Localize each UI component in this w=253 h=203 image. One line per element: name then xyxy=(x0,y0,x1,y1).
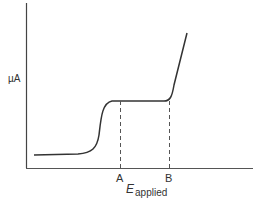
current-curve xyxy=(34,33,187,155)
x-axis-label-main: E xyxy=(126,182,134,196)
marker-a-label: A xyxy=(116,173,123,184)
current-voltage-diagram xyxy=(0,0,253,203)
x-axis-label-sub: applied xyxy=(135,187,167,198)
y-axis-label: µA xyxy=(8,74,20,84)
x-axis-label: Eapplied xyxy=(126,183,167,195)
